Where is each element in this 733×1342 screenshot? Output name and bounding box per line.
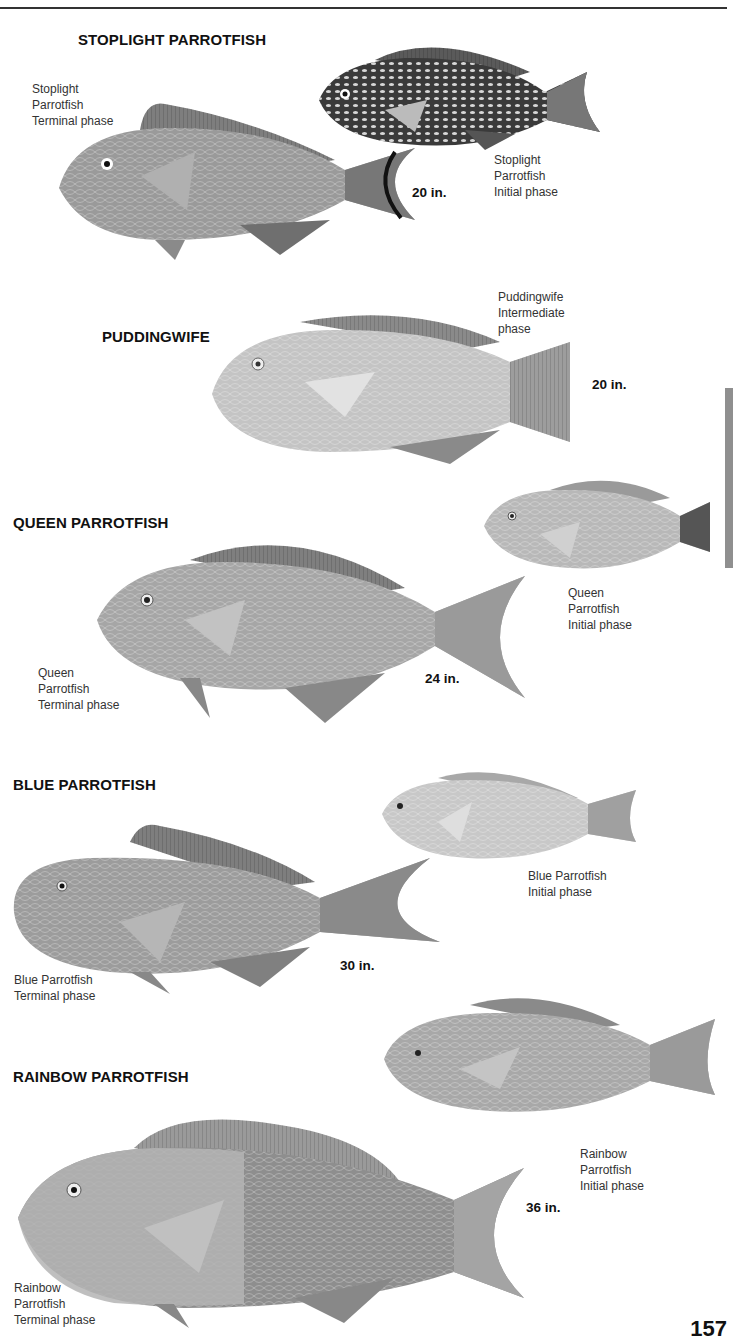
page-number: 157 bbox=[690, 1316, 727, 1342]
section-tab bbox=[725, 388, 733, 568]
illustration-caption: Blue Parrotfish Terminal phase bbox=[14, 972, 95, 1004]
max-size-label: 30 in. bbox=[340, 958, 375, 973]
illustration-caption: Rainbow Parrotfish Terminal phase bbox=[14, 1280, 95, 1328]
queen-terminal-fish-illustration bbox=[95, 528, 535, 728]
illustration-caption: Queen Parrotfish Initial phase bbox=[568, 585, 632, 633]
blue-terminal-fish-illustration bbox=[10, 822, 440, 992]
max-size-label: 20 in. bbox=[412, 185, 447, 200]
species-heading: RAINBOW PARROTFISH bbox=[13, 1068, 189, 1085]
rainbow-initial-fish-illustration bbox=[380, 985, 720, 1120]
top-rule bbox=[0, 7, 727, 9]
illustration-caption: Stoplight Parrotfish Terminal phase bbox=[32, 81, 113, 129]
species-heading: PUDDINGWIFE bbox=[102, 328, 210, 345]
max-size-label: 36 in. bbox=[526, 1200, 561, 1215]
species-heading: STOPLIGHT PARROTFISH bbox=[78, 31, 266, 48]
puddingwife-fish-illustration bbox=[210, 302, 575, 472]
max-size-label: 24 in. bbox=[425, 671, 460, 686]
illustration-caption: Blue Parrotfish Initial phase bbox=[528, 868, 607, 900]
illustration-caption: Stoplight Parrotfish Initial phase bbox=[494, 152, 558, 200]
species-heading: BLUE PARROTFISH bbox=[13, 776, 156, 793]
illustration-caption: Queen Parrotfish Terminal phase bbox=[38, 665, 119, 713]
illustration-caption: Rainbow Parrotfish Initial phase bbox=[580, 1146, 644, 1194]
max-size-label: 20 in. bbox=[592, 377, 627, 392]
